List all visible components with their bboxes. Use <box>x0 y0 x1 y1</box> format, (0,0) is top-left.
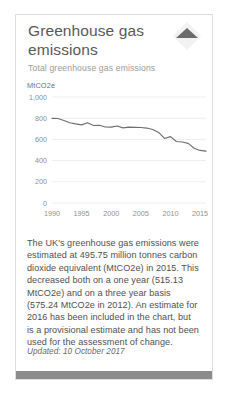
card-body-text: The UK's greenhouse gas emissions were e… <box>27 237 199 349</box>
svg-text:1,000: 1,000 <box>29 93 47 102</box>
svg-text:400: 400 <box>35 156 47 165</box>
svg-text:2010: 2010 <box>162 209 178 218</box>
svg-text:1995: 1995 <box>74 209 90 218</box>
updated-timestamp: Updated: 10 October 2017 <box>27 347 125 356</box>
card-subtitle: Total greenhouse gas emissions <box>28 63 155 73</box>
svg-text:600: 600 <box>35 135 47 144</box>
page-title: Greenhouse gas emissions <box>28 21 168 59</box>
svg-text:2005: 2005 <box>133 209 149 218</box>
svg-text:800: 800 <box>35 114 47 123</box>
card-footer-accent-bar <box>16 371 212 379</box>
svg-text:2000: 2000 <box>103 209 119 218</box>
chart-canvas: 02004006008001,0001990199520002005201020… <box>16 89 213 229</box>
card-inner: Greenhouse gas emissions Total greenhous… <box>16 15 212 379</box>
svg-text:2015: 2015 <box>192 209 208 218</box>
triangle-up-icon[interactable] <box>173 24 203 50</box>
triangle-up-icon-glyph <box>176 28 198 38</box>
svg-text:200: 200 <box>35 177 47 186</box>
emissions-line-chart: MtCO2e 02004006008001,000199019952000200… <box>16 81 212 229</box>
greenhouse-gas-emissions-card: Greenhouse gas emissions Total greenhous… <box>15 14 213 380</box>
svg-text:1990: 1990 <box>44 209 60 218</box>
svg-text:0: 0 <box>43 199 47 208</box>
